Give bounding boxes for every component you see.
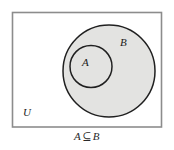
caption-right-set: B xyxy=(93,130,100,142)
universal-set-label: U xyxy=(23,106,32,118)
set-a-label: A xyxy=(81,56,89,68)
set-b-label: B xyxy=(120,36,127,48)
set-a-circle xyxy=(70,46,112,88)
figure-caption: A⊆B xyxy=(0,130,174,143)
venn-diagram-figure: B A U A⊆B xyxy=(0,0,174,150)
venn-diagram-canvas: B A U xyxy=(0,0,174,150)
subset-operator-icon: ⊆ xyxy=(81,130,93,142)
